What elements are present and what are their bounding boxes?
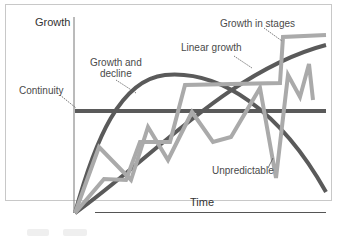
leader-stages — [264, 28, 282, 41]
faint-caption-part — [27, 229, 49, 236]
leader-linear — [234, 56, 252, 68]
label-growth-decline-line2: decline — [100, 68, 132, 79]
label-linear-growth: Linear growth — [181, 42, 242, 53]
series-growth-and-decline — [75, 75, 326, 213]
leader-growth-decline — [116, 80, 136, 93]
x-axis-label: Time — [190, 197, 214, 208]
label-unpredictable: Unpredictable — [212, 165, 274, 176]
label-continuity: Continuity — [19, 85, 63, 96]
faint-caption-part — [63, 229, 87, 236]
chart-plot — [0, 0, 346, 238]
y-axis-label: Growth — [35, 17, 70, 28]
label-growth-decline-line1: Growth and — [90, 57, 142, 68]
label-growth-in-stages: Growth in stages — [220, 18, 295, 29]
